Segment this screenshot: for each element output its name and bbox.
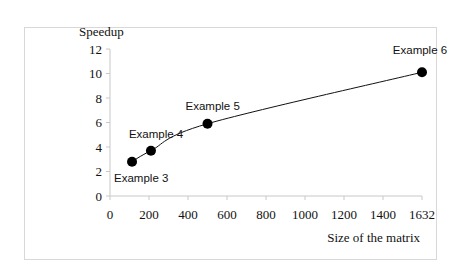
x-tick-label: 1400: [370, 207, 396, 222]
y-tick-label: 10: [89, 66, 102, 81]
point-annotation: Example 5: [186, 100, 240, 112]
y-tick-label: 8: [96, 91, 103, 106]
x-tick-label: 1000: [292, 207, 318, 222]
y-tick-label: 12: [89, 42, 102, 57]
speedup-chart: 02468101202004006008001000120014001632Sp…: [0, 0, 460, 276]
x-axis-title: Size of the matrix: [327, 230, 420, 245]
y-tick-label: 2: [96, 164, 103, 179]
data-point: [127, 157, 137, 167]
x-tick-label: 600: [217, 207, 237, 222]
point-annotation: Example 3: [114, 172, 168, 184]
x-tick-label: 1200: [331, 207, 357, 222]
data-series: [127, 67, 427, 166]
x-tick-label: 800: [256, 207, 276, 222]
y-tick-label: 4: [96, 140, 103, 155]
point-annotation: Example 4: [129, 128, 184, 140]
data-point: [417, 67, 427, 77]
x-tick-label: 1632: [409, 207, 435, 222]
point-annotation: Example 6: [393, 44, 447, 56]
x-tick-label: 400: [178, 207, 198, 222]
data-point: [146, 146, 156, 156]
y-axis-title: Speedup: [79, 24, 124, 39]
x-tick-label: 0: [107, 207, 114, 222]
data-point: [203, 119, 213, 129]
labels: Example 3Example 4Example 5Example 6: [114, 44, 447, 183]
y-tick-label: 6: [96, 115, 103, 130]
x-tick-label: 200: [139, 207, 159, 222]
y-tick-label: 0: [96, 189, 103, 204]
